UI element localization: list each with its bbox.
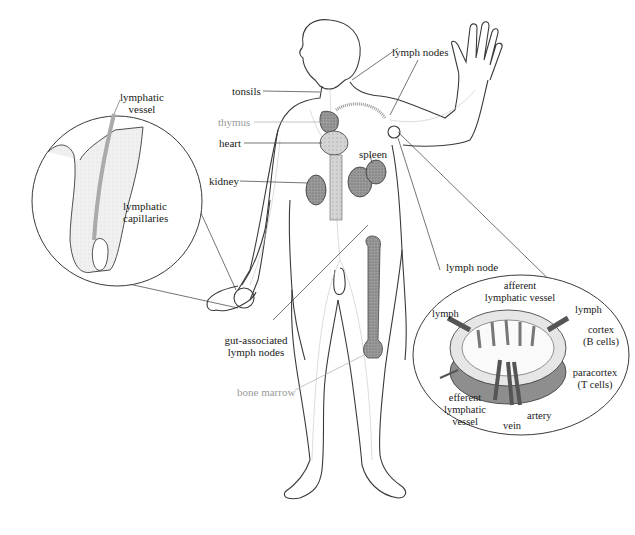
label-lymph-left: lymph	[432, 308, 459, 320]
label-line: lymph nodes	[216, 346, 296, 358]
label-efferent-lymphatic-vessel: efferent lymphatic vessel	[440, 392, 490, 428]
thoracic-duct	[336, 104, 385, 118]
label-artery: artery	[527, 410, 551, 422]
aorta	[330, 155, 342, 220]
label-line: (B cells)	[575, 336, 627, 348]
label-spleen: spleen	[359, 148, 387, 160]
label-gut-associated-lymph-nodes: gut-associated lymph nodes	[216, 334, 296, 358]
label-cortex: cortex (B cells)	[575, 324, 627, 348]
label-line: lymphatic	[440, 404, 490, 416]
label-line: paracortex	[562, 367, 628, 379]
label-line: (T cells)	[562, 379, 628, 391]
label-vein: vein	[503, 420, 521, 432]
label-heart: heart	[219, 137, 241, 149]
label-kidney: kidney	[209, 175, 239, 187]
label-line: lymphatic	[123, 200, 168, 212]
femur-bone-marrow	[364, 236, 383, 358]
label-line: afferent	[465, 280, 575, 292]
label-line: gut-associated	[216, 334, 296, 346]
label-line: vessel	[440, 416, 490, 428]
label-line: vessel	[112, 103, 172, 115]
kidney-left	[306, 175, 326, 205]
label-paracortex: paracortex (T cells)	[562, 367, 628, 391]
label-afferent-lymphatic-vessel: afferent lymphatic vessel	[465, 280, 575, 304]
label-tonsils: tonsils	[232, 85, 261, 97]
label-lymph-right: lymph	[575, 304, 602, 316]
heart	[320, 131, 348, 155]
label-line: cortex	[575, 324, 627, 336]
label-line: efferent	[440, 392, 490, 404]
label-line: lymphatic vessel	[465, 292, 575, 304]
spleen	[366, 160, 386, 184]
label-bone-marrow: bone marrow	[237, 386, 295, 398]
finger-inset	[32, 100, 202, 286]
label-lymph-node-title: lymph node	[446, 261, 498, 273]
label-lymphatic-vessel: lymphatic vessel	[112, 91, 172, 115]
label-line: lymphatic	[112, 91, 172, 103]
label-lymphatic-capillaries: lymphatic capillaries	[123, 200, 168, 224]
label-lymph-nodes: lymph nodes	[392, 46, 449, 58]
lymphatic-system-illustration	[0, 0, 635, 535]
label-thymus: thymus	[218, 116, 250, 128]
label-line: capillaries	[123, 212, 168, 224]
